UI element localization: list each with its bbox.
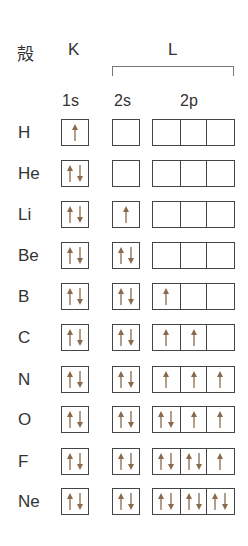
orbital-2p-cell: [180, 161, 207, 186]
spin-up-arrow-icon: [118, 329, 124, 346]
spin-down-arrow-icon: [77, 247, 83, 264]
element-symbol: Li: [18, 205, 58, 225]
orbital-1s-label: 1s: [62, 92, 79, 110]
spin-up-arrow-icon: [191, 329, 197, 346]
element-symbol: F: [18, 452, 58, 472]
orbital-2p-cell: [180, 489, 207, 514]
spin-down-arrow-icon: [77, 288, 83, 305]
spin-down-arrow-icon: [128, 288, 134, 305]
orbital-1s-box: [61, 283, 89, 310]
spin-up-arrow-icon: [67, 206, 73, 223]
orbital-2p-box: [152, 448, 235, 475]
element-symbol: H: [18, 123, 58, 143]
orbital-2p-cell: [153, 243, 180, 268]
element-symbol: O: [18, 410, 58, 430]
orbital-2s-box: [112, 201, 140, 228]
spin-up-arrow-icon: [118, 453, 124, 470]
element-symbol: He: [18, 164, 58, 184]
orbital-2p-cell: [153, 325, 180, 350]
spin-up-arrow-icon: [72, 124, 78, 141]
spin-up-arrow-icon: [186, 453, 192, 470]
spin-up-arrow-icon: [67, 247, 73, 264]
spin-down-arrow-icon: [77, 411, 83, 428]
orbital-2p-box: [152, 406, 235, 433]
spin-up-arrow-icon: [186, 493, 192, 510]
spin-up-arrow-icon: [163, 371, 169, 388]
orbital-2p-cell: [153, 284, 180, 309]
spin-down-arrow-icon: [196, 453, 202, 470]
orbital-2p-cell: [153, 489, 180, 514]
shell-l-label: L: [168, 40, 177, 60]
orbital-2p-cell: [180, 325, 207, 350]
spin-up-arrow-icon: [118, 247, 124, 264]
orbital-2p-cell: [206, 243, 233, 268]
orbital-2p-box: [152, 160, 235, 187]
spin-down-arrow-icon: [168, 453, 174, 470]
spin-down-arrow-icon: [128, 493, 134, 510]
orbital-2p-cell: [206, 161, 233, 186]
orbital-2s-box: [112, 119, 140, 146]
spin-up-arrow-icon: [67, 493, 73, 510]
orbital-1s-box: [61, 119, 89, 146]
orbital-1s-box: [61, 324, 89, 351]
orbital-2p-cell: [180, 243, 207, 268]
orbital-2p-cell: [206, 202, 233, 227]
spin-down-arrow-icon: [128, 247, 134, 264]
shell-l-bracket: [112, 66, 234, 76]
orbital-2s-label: 2s: [114, 92, 131, 110]
orbital-2p-cell: [153, 120, 180, 145]
spin-down-arrow-icon: [168, 493, 174, 510]
orbital-1s-box: [61, 488, 89, 515]
spin-down-arrow-icon: [128, 329, 134, 346]
shell-k-label: K: [68, 40, 79, 60]
spin-down-arrow-icon: [77, 453, 83, 470]
orbital-2p-cell: [206, 367, 233, 392]
spin-up-arrow-icon: [67, 371, 73, 388]
orbital-2p-cell: [180, 202, 207, 227]
orbital-2p-cell: [206, 120, 233, 145]
orbital-2s-box: [112, 242, 140, 269]
spin-up-arrow-icon: [191, 371, 197, 388]
spin-up-arrow-icon: [67, 329, 73, 346]
spin-up-arrow-icon: [118, 288, 124, 305]
orbital-2p-cell: [206, 325, 233, 350]
spin-down-arrow-icon: [77, 206, 83, 223]
orbital-2s-box: [112, 488, 140, 515]
orbital-2p-box: [152, 324, 235, 351]
orbital-1s-box: [61, 448, 89, 475]
spin-up-arrow-icon: [118, 371, 124, 388]
orbital-2p-cell: [153, 367, 180, 392]
orbital-2p-box: [152, 488, 235, 515]
spin-up-arrow-icon: [67, 165, 73, 182]
spin-down-arrow-icon: [128, 453, 134, 470]
orbital-2p-cell: [153, 161, 180, 186]
spin-up-arrow-icon: [158, 411, 164, 428]
spin-down-arrow-icon: [222, 493, 228, 510]
spin-up-arrow-icon: [191, 411, 197, 428]
spin-down-arrow-icon: [77, 329, 83, 346]
orbital-2p-box: [152, 119, 235, 146]
orbital-2p-cell: [153, 407, 180, 432]
orbital-1s-box: [61, 160, 89, 187]
element-symbol: Be: [18, 246, 58, 266]
orbital-2p-cell: [206, 407, 233, 432]
element-symbol: C: [18, 328, 58, 348]
spin-down-arrow-icon: [128, 411, 134, 428]
spin-down-arrow-icon: [196, 493, 202, 510]
orbital-2p-box: [152, 242, 235, 269]
spin-up-arrow-icon: [118, 493, 124, 510]
element-symbol: Ne: [18, 492, 58, 512]
shell-label: 殻: [17, 40, 34, 65]
orbital-2p-cell: [180, 120, 207, 145]
element-symbol: N: [18, 370, 58, 390]
orbital-2p-box: [152, 283, 235, 310]
orbital-2p-cell: [180, 449, 207, 474]
element-symbol: B: [18, 287, 58, 307]
spin-up-arrow-icon: [158, 453, 164, 470]
spin-down-arrow-icon: [77, 493, 83, 510]
orbital-2p-cell: [153, 449, 180, 474]
orbital-2p-cell: [153, 202, 180, 227]
spin-down-arrow-icon: [77, 371, 83, 388]
spin-up-arrow-icon: [118, 411, 124, 428]
spin-up-arrow-icon: [67, 411, 73, 428]
